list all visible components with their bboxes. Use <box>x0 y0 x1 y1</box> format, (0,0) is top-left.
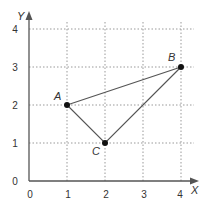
y-axis-label: Y <box>17 10 25 22</box>
point-c-label: C <box>92 145 100 157</box>
point-b <box>178 64 184 70</box>
x-tick-0: 0 <box>27 189 33 200</box>
y-tick-4: 4 <box>12 24 18 35</box>
point-a-label: A <box>53 90 61 102</box>
x-tick-labels: 0 1 2 3 4 <box>27 189 183 200</box>
x-axis-label: X <box>190 184 199 196</box>
x-tick-4: 4 <box>177 189 183 200</box>
point-b-label: B <box>168 51 175 63</box>
y-tick-2: 2 <box>12 100 18 111</box>
coordinate-plane: X Y 0 1 2 3 4 0 1 2 3 4 A B C <box>0 0 208 208</box>
x-tick-1: 1 <box>65 189 71 200</box>
y-axis-arrow-icon <box>26 11 33 20</box>
x-tick-3: 3 <box>141 189 147 200</box>
point-a <box>64 102 70 108</box>
y-tick-labels: 0 1 2 3 4 <box>12 24 18 187</box>
point-c <box>102 140 108 146</box>
y-tick-0: 0 <box>12 176 18 187</box>
y-tick-1: 1 <box>12 138 18 149</box>
y-tick-3: 3 <box>12 62 18 73</box>
x-tick-2: 2 <box>103 189 109 200</box>
